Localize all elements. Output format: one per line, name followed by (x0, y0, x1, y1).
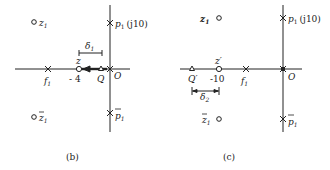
zprime-value: -10 (210, 74, 225, 84)
panel-c-labels: z1 z1 p1(j10) p1 f1 z′ -10 Q′ O δ2 (c) (188, 14, 321, 162)
f1-label: f1 (43, 76, 51, 87)
zero-z1-icon (32, 20, 37, 25)
f1-label: f1 (240, 76, 248, 87)
panel-c (180, 5, 302, 132)
caption-c: (c) (223, 152, 235, 162)
p1-label: p1(j10) (115, 19, 148, 30)
caption-b: (b) (66, 152, 79, 162)
zero-z1bar-icon (217, 117, 222, 122)
arrow-head-icon (83, 66, 90, 72)
point-q-icon (99, 66, 104, 71)
zprime-label: z′ (214, 56, 222, 66)
panel-b (15, 5, 130, 132)
delta1-label: δ1 (85, 41, 94, 52)
z-value: - 4 (69, 74, 81, 84)
p1-label: p1(j10) (288, 14, 321, 25)
panel-b-labels: z1 z1 p1(j10) p1 f1 z - 4 Q O δ1 (b) (38, 18, 148, 162)
zero-zprime-icon (216, 66, 221, 71)
z1-label: z1 (199, 14, 209, 25)
point-qprime-icon (190, 66, 195, 71)
z1bar-label: z1 (38, 113, 48, 124)
zero-z1bar-icon (32, 115, 37, 120)
zero-z1-icon (217, 16, 222, 21)
z1-label: z1 (38, 18, 48, 29)
p1bar-label: p1 (115, 111, 125, 122)
origin-label: O (288, 72, 296, 82)
qprime-label: Q′ (188, 74, 197, 84)
z-label: z (75, 56, 81, 66)
zero-z-icon (76, 66, 81, 71)
q-label: Q (97, 74, 105, 84)
z1bar-label: z1 (201, 115, 211, 126)
origin-label: O (114, 71, 122, 81)
p1bar-label: p1 (288, 117, 298, 128)
pole-zero-diagrams: z1 z1 p1(j10) p1 f1 z - 4 Q O δ1 (b) z1 … (0, 0, 330, 170)
delta2-label: δ2 (200, 92, 209, 103)
